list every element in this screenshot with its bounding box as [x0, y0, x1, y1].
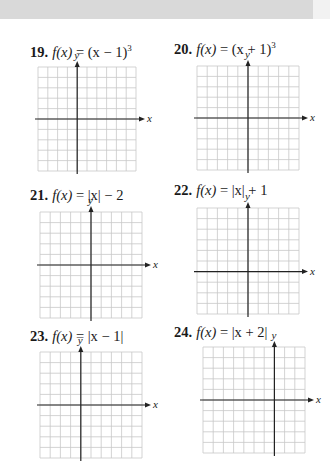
equals-sign: =: [72, 187, 87, 203]
function-name: f(x): [52, 187, 72, 203]
problem-19-label: 19.f(x) = (x − 1)3: [30, 44, 132, 60]
problem-19-graph: xy: [38, 67, 136, 171]
x-axis-arrow-icon: [308, 398, 314, 403]
problem-number: 21.: [30, 187, 48, 203]
x-axis-label: x: [310, 112, 315, 123]
y-axis-arrow-icon: [78, 346, 83, 352]
problem-23-graph: xy: [40, 352, 142, 458]
problem-21-graph: xy: [40, 212, 142, 318]
function-name: f(x): [196, 182, 216, 198]
equals-sign: =: [216, 41, 231, 57]
coordinate-grid: [197, 66, 299, 170]
function-expression: |x + 2|: [232, 324, 268, 340]
problem-24-graph: xy: [203, 347, 305, 453]
x-axis-label: x: [316, 394, 321, 405]
y-axis-arrow-icon: [89, 206, 94, 212]
function-expression: (x − 1): [88, 44, 128, 60]
x-axis-arrow-icon: [145, 263, 151, 268]
x-axis-label: x: [310, 266, 315, 277]
function-name: f(x): [52, 44, 72, 60]
page-top-band: [0, 0, 313, 19]
function-expression: |x| − 2: [88, 187, 124, 203]
coordinate-grid: [38, 67, 136, 171]
problem-20-graph: xy: [197, 66, 299, 170]
equals-sign: =: [216, 324, 231, 340]
y-axis-label: y: [74, 50, 79, 61]
x-axis-label: x: [153, 399, 158, 410]
coordinate-grid: [197, 208, 299, 314]
function-exponent: 3: [271, 40, 276, 50]
page-top-band-edge: [313, 0, 330, 19]
problem-22-graph: xy: [197, 208, 299, 314]
problem-21-label: 21.f(x) = |x| − 2: [30, 188, 123, 203]
function-exponent: 3: [127, 43, 132, 53]
problem-23-label: 23.f(x) = |x − 1|: [30, 329, 123, 344]
coordinate-grid: [40, 352, 142, 458]
function-name: f(x): [196, 41, 216, 57]
x-axis-arrow-icon: [145, 403, 151, 408]
function-name: f(x): [196, 324, 216, 340]
y-axis-label: y: [88, 195, 93, 206]
function-name: f(x): [52, 328, 72, 344]
y-axis-label: y: [245, 191, 250, 202]
coordinate-grid: [203, 347, 305, 453]
y-axis-arrow-icon: [246, 60, 251, 66]
x-axis-label: x: [147, 113, 152, 124]
y-axis-arrow-icon: [75, 61, 80, 67]
y-axis-label: y: [78, 335, 83, 346]
coordinate-grid: [40, 212, 142, 318]
x-axis-arrow-icon: [139, 117, 145, 122]
problem-22-label: 22.f(x) = |x| + 1: [174, 183, 267, 198]
function-expression: |x − 1|: [88, 328, 124, 344]
problem-20-label: 20.f(x) = (x + 1)3: [174, 41, 276, 57]
problem-number: 22.: [174, 182, 192, 198]
x-axis-arrow-icon: [302, 116, 308, 121]
problem-number: 20.: [174, 41, 192, 57]
function-expression: (x + 1): [232, 41, 272, 57]
x-axis-label: x: [153, 259, 158, 270]
y-axis-arrow-icon: [246, 202, 251, 208]
y-axis-label: y: [245, 49, 250, 60]
x-axis-arrow-icon: [302, 269, 308, 274]
problem-number: 23.: [30, 328, 48, 344]
y-axis-arrow-icon: [272, 341, 277, 347]
equals-sign: =: [216, 182, 231, 198]
problem-number: 24.: [174, 324, 192, 340]
problem-24-label: 24.f(x) = |x + 2|: [174, 325, 267, 340]
y-axis-label: y: [271, 330, 276, 341]
problem-number: 19.: [30, 44, 48, 60]
